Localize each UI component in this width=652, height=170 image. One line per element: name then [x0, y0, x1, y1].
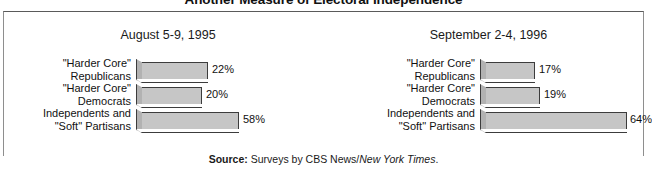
source-publication: New York Times — [359, 153, 435, 165]
source-note: Source: Surveys by CBS News/New York Tim… — [0, 153, 647, 165]
bar-value-label: 20% — [206, 88, 228, 100]
bar-row: "Harder Core" Democrats 19% — [333, 84, 644, 108]
bar-rows-right: "Harder Core" Republicans 17% "Harder Co… — [333, 11, 644, 146]
category-label: "Harder Core" Republicans — [3, 57, 131, 82]
category-label-line1: "Harder Core" — [3, 82, 131, 95]
source-text: Surveys by CBS News/ — [248, 153, 359, 165]
category-label-line1: Independents and — [333, 107, 475, 120]
figure-title: Another Measure of Electoral Independenc… — [0, 0, 647, 7]
category-label-line1: "Harder Core" — [3, 57, 131, 70]
bar-row: "Harder Core" Republicans 22% — [3, 59, 333, 83]
bar-value-label: 19% — [544, 88, 566, 100]
category-label-line1: "Harder Core" — [333, 82, 475, 95]
bar-rows-left: "Harder Core" Republicans 22% "Harder Co… — [3, 11, 333, 146]
category-label-line2: "Soft" Partisans — [333, 120, 475, 133]
category-label: "Harder Core" Democrats — [333, 82, 475, 107]
bar-republicans — [136, 59, 208, 83]
source-text-end: . — [435, 153, 438, 165]
bar-3d-bottom-face — [136, 79, 208, 83]
category-label-line2: Republicans — [333, 70, 475, 83]
category-label: Independents and "Soft" Partisans — [3, 107, 131, 132]
category-label-line2: Democrats — [3, 95, 131, 108]
category-label: Independents and "Soft" Partisans — [333, 107, 475, 132]
chart-panel-august-1995: August 5-9, 1995 "Harder Core" Republica… — [3, 11, 333, 146]
category-label: "Harder Core" Democrats — [3, 82, 131, 107]
bar-3d-bottom-face — [480, 104, 540, 108]
bar-3d-bottom-face — [480, 129, 627, 133]
bar-independents — [480, 109, 627, 133]
category-label-line2: "Soft" Partisans — [3, 120, 131, 133]
bar-row: Independents and "Soft" Partisans 64% — [333, 109, 644, 133]
bar-row: Independents and "Soft" Partisans 58% — [3, 109, 333, 133]
bar-3d-bottom-face — [136, 104, 202, 108]
bar-row: "Harder Core" Democrats 20% — [3, 84, 333, 108]
category-label-line2: Democrats — [333, 95, 475, 108]
bar-democrats — [136, 84, 202, 108]
bar-value-label: 58% — [243, 113, 265, 125]
source-label: Source: — [209, 153, 248, 165]
chart-panel-september-1996: September 2-4, 1996 "Harder Core" Republ… — [333, 11, 644, 146]
bar-republicans — [480, 59, 535, 83]
category-label-line1: Independents and — [3, 107, 131, 120]
bar-value-label: 64% — [630, 113, 652, 125]
bar-value-label: 17% — [539, 63, 561, 75]
category-label: "Harder Core" Republicans — [333, 57, 475, 82]
category-label-line2: Republicans — [3, 70, 131, 83]
bar-democrats — [480, 84, 540, 108]
bar-3d-bottom-face — [136, 129, 239, 133]
bar-independents — [136, 109, 239, 133]
bar-row: "Harder Core" Republicans 17% — [333, 59, 644, 83]
bar-value-label: 22% — [212, 63, 234, 75]
category-label-line1: "Harder Core" — [333, 57, 475, 70]
bar-3d-bottom-face — [480, 79, 535, 83]
